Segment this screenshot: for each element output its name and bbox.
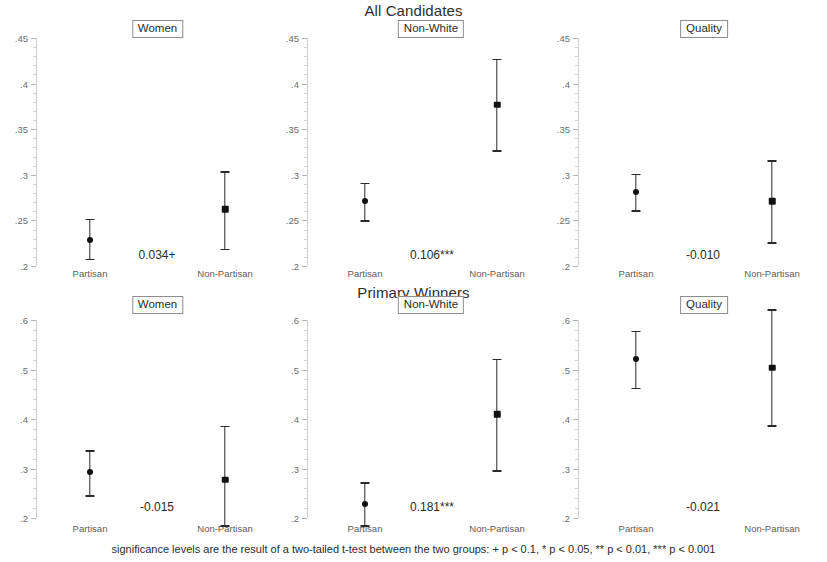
- y-tick-minor: [33, 488, 36, 489]
- error-bar-cap-lower: [361, 525, 370, 526]
- y-tick-minor: [33, 157, 36, 158]
- error-bar-cap-lower: [221, 249, 230, 250]
- error-bar-cap-lower: [493, 470, 502, 471]
- y-tick-minor: [575, 459, 578, 460]
- category-label-partisan: Partisan: [619, 523, 654, 534]
- y-tick-minor: [575, 93, 578, 94]
- y-tick-minor: [33, 360, 36, 361]
- y-tick-minor: [304, 147, 307, 148]
- category-label-partisan: Partisan: [619, 268, 654, 279]
- y-tick-label: .2: [271, 261, 299, 272]
- error-bar-cap-upper: [86, 450, 95, 451]
- y-tick-major: [573, 419, 578, 420]
- point-estimate-marker: [87, 237, 93, 243]
- y-axis-line: [578, 38, 579, 266]
- y-tick-minor: [575, 478, 578, 479]
- y-tick-minor: [33, 93, 36, 94]
- difference-label: -0.010: [686, 248, 720, 262]
- y-tick-label: .25: [271, 215, 299, 226]
- y-tick-major: [31, 129, 36, 130]
- y-tick-minor: [304, 330, 307, 331]
- category-label-non-partisan: Non-Partisan: [469, 268, 524, 279]
- y-tick-minor: [33, 429, 36, 430]
- y-tick-minor: [33, 202, 36, 203]
- y-tick-minor: [33, 56, 36, 57]
- y-tick-label: .3: [0, 169, 28, 180]
- category-label-partisan: Partisan: [73, 268, 108, 279]
- y-tick-major: [573, 370, 578, 371]
- category-label-non-partisan: Non-Partisan: [197, 268, 252, 279]
- y-tick-label: .45: [0, 33, 28, 44]
- error-bar-cap-upper: [493, 59, 502, 60]
- y-tick-major: [573, 84, 578, 85]
- point-estimate-marker: [222, 206, 229, 213]
- point-estimate-marker: [362, 501, 368, 507]
- y-tick-label: .35: [271, 124, 299, 135]
- y-tick-minor: [33, 439, 36, 440]
- error-bar-cap-upper: [768, 309, 777, 310]
- error-bar-cap-upper: [221, 171, 230, 172]
- y-tick-label: .25: [0, 215, 28, 226]
- y-tick-minor: [33, 508, 36, 509]
- row-title-1: All Candidates: [0, 2, 827, 19]
- y-tick-minor: [304, 93, 307, 94]
- y-axis-line: [36, 320, 37, 518]
- y-tick-minor: [33, 239, 36, 240]
- error-bar-cap-upper: [86, 219, 95, 220]
- y-tick-major: [302, 370, 307, 371]
- y-tick-minor: [33, 330, 36, 331]
- y-tick-minor: [304, 429, 307, 430]
- y-tick-minor: [33, 120, 36, 121]
- error-bar-cap-lower: [632, 210, 641, 211]
- y-tick-minor: [575, 120, 578, 121]
- y-tick-minor: [33, 248, 36, 249]
- y-tick-label: .5: [542, 364, 570, 375]
- y-tick-minor: [33, 147, 36, 148]
- y-tick-label: .2: [542, 261, 570, 272]
- y-tick-major: [573, 129, 578, 130]
- y-tick-major: [302, 518, 307, 519]
- error-bar-cap-lower: [768, 425, 777, 426]
- error-bar-cap-upper: [361, 183, 370, 184]
- difference-label: -0.021: [686, 500, 720, 514]
- y-tick-minor: [33, 102, 36, 103]
- panel-label-non-white: Non-White: [398, 296, 464, 314]
- y-tick-minor: [575, 166, 578, 167]
- y-tick-major: [31, 419, 36, 420]
- y-tick-label: .45: [542, 33, 570, 44]
- y-tick-minor: [575, 239, 578, 240]
- y-tick-minor: [575, 439, 578, 440]
- error-bar-cap-upper: [632, 331, 641, 332]
- y-tick-minor: [304, 389, 307, 390]
- y-tick-label: .4: [0, 78, 28, 89]
- y-tick-minor: [304, 74, 307, 75]
- y-tick-major: [302, 84, 307, 85]
- error-bar-cap-lower: [632, 388, 641, 389]
- panel-label-women: Women: [132, 20, 183, 38]
- y-tick-minor: [575, 147, 578, 148]
- y-tick-minor: [575, 111, 578, 112]
- y-tick-minor: [575, 379, 578, 380]
- y-tick-label: .35: [542, 124, 570, 135]
- y-tick-major: [302, 419, 307, 420]
- error-bar-cap-upper: [493, 359, 502, 360]
- y-tick-major: [302, 320, 307, 321]
- point-estimate-marker: [769, 198, 776, 205]
- error-bar-cap-lower: [493, 150, 502, 151]
- y-tick-major: [302, 38, 307, 39]
- y-tick-minor: [304, 111, 307, 112]
- y-tick-minor: [575, 157, 578, 158]
- y-axis-line: [578, 320, 579, 518]
- y-tick-minor: [575, 65, 578, 66]
- y-tick-minor: [304, 379, 307, 380]
- point-estimate-marker: [362, 198, 368, 204]
- y-tick-major: [31, 320, 36, 321]
- y-tick-minor: [304, 459, 307, 460]
- error-bar-cap-upper: [221, 426, 230, 427]
- category-label-partisan: Partisan: [348, 268, 383, 279]
- error-bar-cap-lower: [221, 525, 230, 526]
- y-tick-minor: [575, 449, 578, 450]
- y-tick-minor: [575, 429, 578, 430]
- y-tick-minor: [575, 409, 578, 410]
- y-tick-minor: [575, 399, 578, 400]
